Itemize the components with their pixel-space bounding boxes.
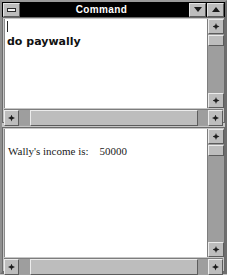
- command-vscroll-thumb[interactable]: [208, 35, 224, 46]
- scroll-down-arrow-glyph: [213, 246, 220, 253]
- triangle-up-icon: [212, 7, 220, 12]
- maximize-button[interactable]: [207, 3, 224, 17]
- scroll-left-arrow-glyph: [8, 264, 15, 271]
- command-output-textarea[interactable]: Wally's income is: 50000: [4, 129, 207, 257]
- command-output-text: Wally's income is: 50000: [8, 145, 127, 157]
- command-input-textarea[interactable]: do paywally: [4, 19, 207, 108]
- scroll-right-arrow-glyph: [212, 264, 219, 271]
- minimize-button[interactable]: [189, 3, 206, 17]
- output-hscroll-thumb[interactable]: [30, 259, 198, 275]
- scroll-left-arrow-icon[interactable]: [4, 110, 19, 126]
- command-horizontal-scrollbar[interactable]: [4, 109, 223, 125]
- output-pane-frame: Wally's income is: 50000: [2, 127, 225, 272]
- output-vscroll-thumb[interactable]: [208, 145, 224, 156]
- scroll-up-arrow-icon[interactable]: [208, 129, 224, 144]
- scroll-down-arrow-glyph: [213, 97, 220, 104]
- scroll-right-arrow-icon[interactable]: [208, 110, 223, 126]
- scroll-down-arrow-icon[interactable]: [208, 242, 224, 257]
- scroll-left-arrow-glyph: [8, 115, 15, 122]
- window-title: Command: [20, 2, 189, 17]
- command-input-pane: do paywally: [2, 17, 225, 123]
- system-menu-bar-glyph: [7, 8, 16, 12]
- command-hscroll-thumb[interactable]: [30, 110, 198, 126]
- command-vertical-scrollbar[interactable]: [207, 19, 223, 108]
- scroll-up-arrow-glyph: [213, 133, 220, 140]
- text-caret: [7, 21, 8, 32]
- command-output-pane: Wally's income is: 50000: [2, 127, 225, 272]
- scroll-down-arrow-icon[interactable]: [208, 93, 224, 108]
- scroll-right-arrow-glyph: [212, 115, 219, 122]
- scroll-up-arrow-glyph: [213, 23, 220, 30]
- scroll-left-arrow-icon[interactable]: [4, 259, 19, 275]
- output-vertical-scrollbar[interactable]: [207, 129, 223, 257]
- scroll-up-arrow-icon[interactable]: [208, 19, 224, 34]
- system-menu-box-icon[interactable]: [3, 3, 20, 17]
- output-vscroll-track[interactable]: [208, 144, 224, 242]
- output-horizontal-scrollbar[interactable]: [4, 258, 223, 274]
- scroll-right-arrow-icon[interactable]: [208, 259, 223, 275]
- triangle-down-icon: [194, 7, 202, 12]
- title-bar[interactable]: Command: [2, 2, 225, 17]
- command-pane-frame: do paywally: [2, 17, 225, 123]
- command-input-text: do paywally: [7, 35, 81, 48]
